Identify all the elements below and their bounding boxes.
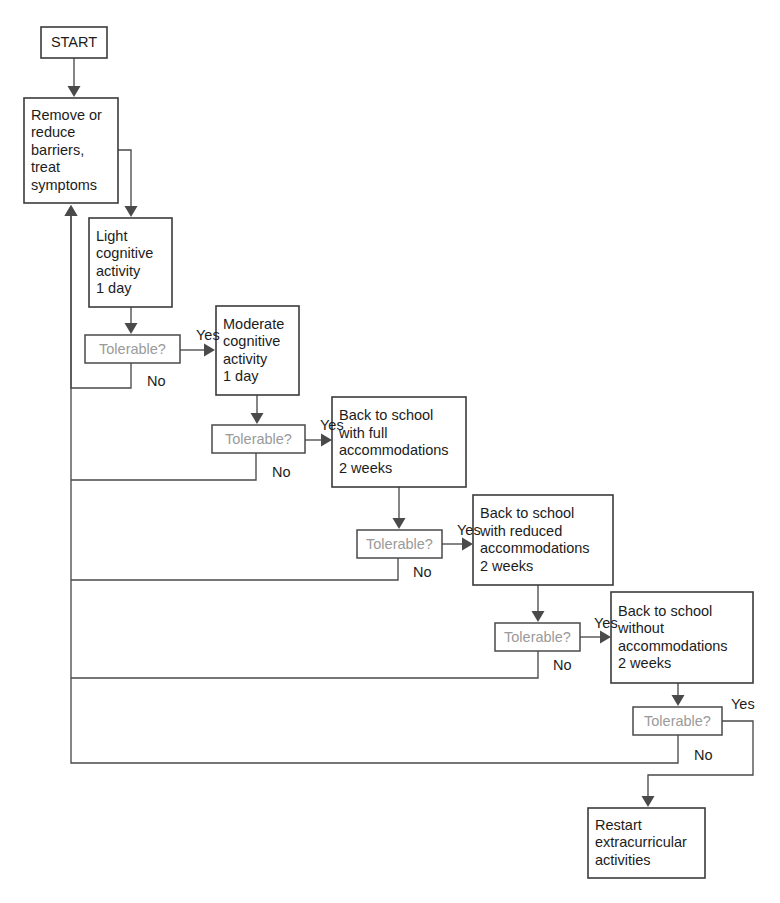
edge-path-remove-to-light [118, 150, 131, 210]
arrow-head-tolerable3-yes [462, 538, 473, 551]
node-start[interactable]: START [41, 27, 107, 58]
node-label-school-reduced-line-3: 2 weeks [480, 558, 533, 574]
node-remove-reduce[interactable]: Remove orreducebarriers,treatsymptoms [24, 98, 118, 203]
edge-light-to-tolerable1 [125, 307, 138, 334]
edge-tolerable2-yes [305, 434, 332, 447]
node-label-tolerable-2: Tolerable? [225, 431, 292, 447]
edge-moderate-to-tolerable2 [251, 395, 264, 424]
node-label-tolerable-3: Tolerable? [366, 536, 433, 552]
node-label-light-cognitive-line-2: activity [96, 263, 141, 279]
edge-label-no-1: No [147, 373, 166, 389]
edge-label-yes-2: Yes [320, 417, 344, 433]
node-label-school-without-line-1: without [617, 620, 664, 636]
edge-remove-to-light [118, 150, 138, 217]
arrow-head-schoolreduced-to-tolerable4 [532, 611, 545, 622]
node-tolerable-1[interactable]: Tolerable? [85, 335, 180, 363]
node-tolerable-2[interactable]: Tolerable? [212, 425, 305, 453]
node-restart-extracurricular[interactable]: Restartextracurricularactivities [588, 808, 705, 878]
arrow-head-remove-to-light [125, 206, 138, 217]
node-label-school-full-line-0: Back to school [339, 407, 433, 423]
node-label-tolerable-4: Tolerable? [504, 629, 571, 645]
node-label-start: START [51, 34, 97, 50]
arrow-head-schoolfull-to-tolerable3 [393, 518, 406, 529]
node-label-restart-extracurricular-line-2: activities [595, 852, 651, 868]
node-label-school-reduced-line-2: accommodations [480, 540, 590, 556]
node-label-moderate-cognitive-line-2: activity [223, 351, 268, 367]
edge-path-tolerable2-no [71, 453, 256, 480]
node-label-tolerable-5: Tolerable? [644, 713, 711, 729]
node-light-cognitive[interactable]: Lightcognitiveactivity1 day [89, 218, 172, 307]
arrow-head-tolerable5-no [65, 205, 78, 216]
node-label-light-cognitive-line-3: 1 day [96, 280, 132, 296]
edge-path-tolerable4-no [71, 651, 538, 678]
edge-tolerable2-no [71, 453, 256, 480]
edge-label-no-2: No [272, 464, 291, 480]
edge-start-to-remove [68, 58, 81, 97]
node-school-without[interactable]: Back to schoolwithoutaccommodations2 wee… [611, 592, 753, 683]
node-label-restart-extracurricular-line-1: extracurricular [595, 834, 687, 850]
edge-tolerable3-no [71, 558, 398, 580]
edge-label-no-3: No [413, 564, 432, 580]
node-label-moderate-cognitive-line-0: Moderate [223, 316, 284, 332]
node-label-remove-reduce-line-0: Remove or [31, 107, 102, 123]
node-label-school-full-line-2: accommodations [339, 442, 449, 458]
node-label-moderate-cognitive-line-1: cognitive [223, 333, 280, 349]
arrow-head-tolerable1-yes [204, 344, 215, 357]
node-label-light-cognitive-line-0: Light [96, 228, 127, 244]
node-label-school-full-line-3: 2 weeks [339, 460, 392, 476]
node-label-remove-reduce-line-3: treat [31, 159, 60, 175]
node-school-full[interactable]: Back to schoolwith fullaccommodations2 w… [332, 397, 466, 487]
node-label-light-cognitive-line-1: cognitive [96, 245, 153, 261]
arrow-head-tolerable2-yes [321, 434, 332, 447]
node-moderate-cognitive[interactable]: Moderatecognitiveactivity1 day [216, 306, 299, 395]
arrow-head-schoolwithout-to-tolerable5 [672, 695, 685, 706]
node-label-school-without-line-2: accommodations [618, 638, 728, 654]
node-tolerable-4[interactable]: Tolerable? [495, 623, 580, 651]
arrow-head-tolerable5-yes [642, 796, 655, 807]
edge-label-no-4: No [553, 657, 572, 673]
flowchart-svg: STARTRemove orreducebarriers,treatsympto… [0, 0, 780, 903]
edge-label-no-5: No [694, 747, 713, 763]
node-tolerable-3[interactable]: Tolerable? [357, 530, 442, 558]
edge-schoolreduced-to-tolerable4 [532, 585, 545, 622]
node-label-school-without-line-0: Back to school [618, 603, 712, 619]
node-label-restart-extracurricular-line-0: Restart [595, 817, 642, 833]
arrow-head-tolerable4-yes [600, 631, 611, 644]
edge-tolerable4-yes [580, 631, 611, 644]
edge-label-yes-5: Yes [731, 696, 755, 712]
node-label-tolerable-1: Tolerable? [99, 341, 166, 357]
node-label-school-without-line-3: 2 weeks [618, 655, 671, 671]
node-label-remove-reduce-line-4: symptoms [31, 177, 97, 193]
node-label-school-full-line-1: with full [338, 425, 387, 441]
edge-tolerable4-no [71, 651, 538, 678]
node-label-school-reduced-line-0: Back to school [480, 505, 574, 521]
edge-label-yes-4: Yes [594, 615, 618, 631]
node-label-remove-reduce-line-2: barriers, [31, 142, 84, 158]
edge-tolerable3-yes [442, 538, 473, 551]
arrow-head-moderate-to-tolerable2 [251, 413, 264, 424]
arrow-head-light-to-tolerable1 [125, 323, 138, 334]
edge-path-tolerable3-no [71, 558, 398, 580]
node-tolerable-5[interactable]: Tolerable? [633, 707, 722, 735]
edge-schoolwithout-to-tolerable5 [672, 683, 685, 706]
nodes-layer: STARTRemove orreducebarriers,treatsympto… [24, 27, 753, 878]
node-label-moderate-cognitive-line-3: 1 day [223, 368, 259, 384]
edge-label-yes-1: Yes [196, 327, 220, 343]
node-label-remove-reduce-line-1: reduce [31, 124, 75, 140]
node-school-reduced[interactable]: Back to schoolwith reducedaccommodations… [473, 495, 613, 585]
arrow-head-start-to-remove [68, 86, 81, 97]
flowchart-canvas: STARTRemove orreducebarriers,treatsympto… [0, 0, 780, 903]
node-label-school-reduced-line-1: with reduced [479, 523, 562, 539]
edge-label-yes-3: Yes [457, 522, 481, 538]
edge-schoolfull-to-tolerable3 [393, 487, 406, 529]
edge-tolerable1-yes [180, 344, 215, 357]
